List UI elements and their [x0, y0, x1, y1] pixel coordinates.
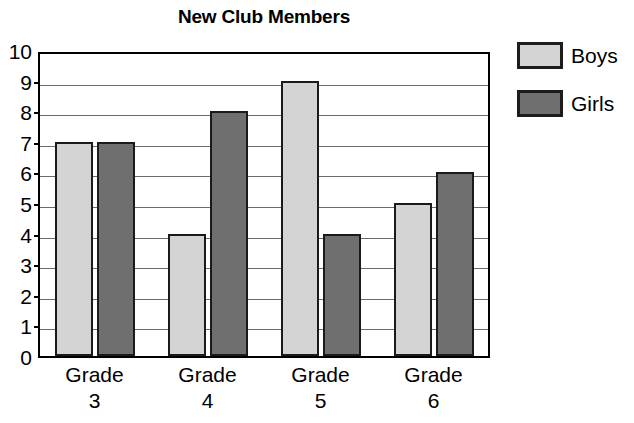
y-tick-label-0: 0	[0, 347, 32, 368]
y-tick-label-9: 9	[0, 72, 32, 93]
bar-boys-grade-4	[168, 234, 206, 356]
chart-legend: BoysGirls	[513, 42, 634, 132]
x-tick-label-group-1: Grade3	[38, 362, 151, 414]
legend-label-boys: Boys	[571, 43, 618, 68]
y-tick-label-1: 1	[0, 316, 32, 337]
legend-swatch-girls	[517, 90, 563, 117]
bar-girls-grade-3	[97, 142, 135, 356]
bar-chart: New Club Members 012345678910 Grade3Grad…	[0, 0, 634, 423]
bar-girls-grade-6	[436, 172, 474, 356]
x-tick-label-word: Grade	[151, 362, 264, 388]
bar-boys-grade-3	[55, 142, 93, 356]
x-tick-label-group-4: Grade6	[377, 362, 490, 414]
y-tick-label-4: 4	[0, 225, 32, 246]
x-tick-label-number: 4	[151, 388, 264, 414]
x-tick-label-number: 5	[264, 388, 377, 414]
x-tick-label-word: Grade	[38, 362, 151, 388]
y-tick-label-2: 2	[0, 286, 32, 307]
bar-boys-grade-6	[394, 203, 432, 356]
x-tick-label-word: Grade	[377, 362, 490, 388]
bar-girls-grade-5	[323, 234, 361, 356]
chart-title: New Club Members	[38, 6, 490, 28]
legend-swatch-boys	[517, 42, 563, 69]
x-tick-label-word: Grade	[264, 362, 377, 388]
bar-boys-grade-5	[281, 81, 319, 356]
bars-layer	[38, 52, 490, 358]
y-axis-tick-labels: 012345678910	[0, 52, 32, 358]
x-tick-label-group-3: Grade5	[264, 362, 377, 414]
y-tick-label-5: 5	[0, 194, 32, 215]
legend-item-girls: Girls	[513, 90, 634, 118]
y-tick-label-3: 3	[0, 255, 32, 276]
legend-label-girls: Girls	[571, 91, 614, 116]
x-tick-label-group-2: Grade4	[151, 362, 264, 414]
y-tick-label-6: 6	[0, 163, 32, 184]
legend-item-boys: Boys	[513, 42, 634, 70]
x-tick-label-number: 3	[38, 388, 151, 414]
y-tick-label-8: 8	[0, 102, 32, 123]
y-tick-label-10: 10	[0, 41, 32, 62]
x-axis-tick-labels: Grade3Grade4Grade5Grade6	[38, 362, 490, 420]
bar-girls-grade-4	[210, 111, 248, 356]
y-tick-label-7: 7	[0, 133, 32, 154]
x-tick-label-number: 6	[377, 388, 490, 414]
